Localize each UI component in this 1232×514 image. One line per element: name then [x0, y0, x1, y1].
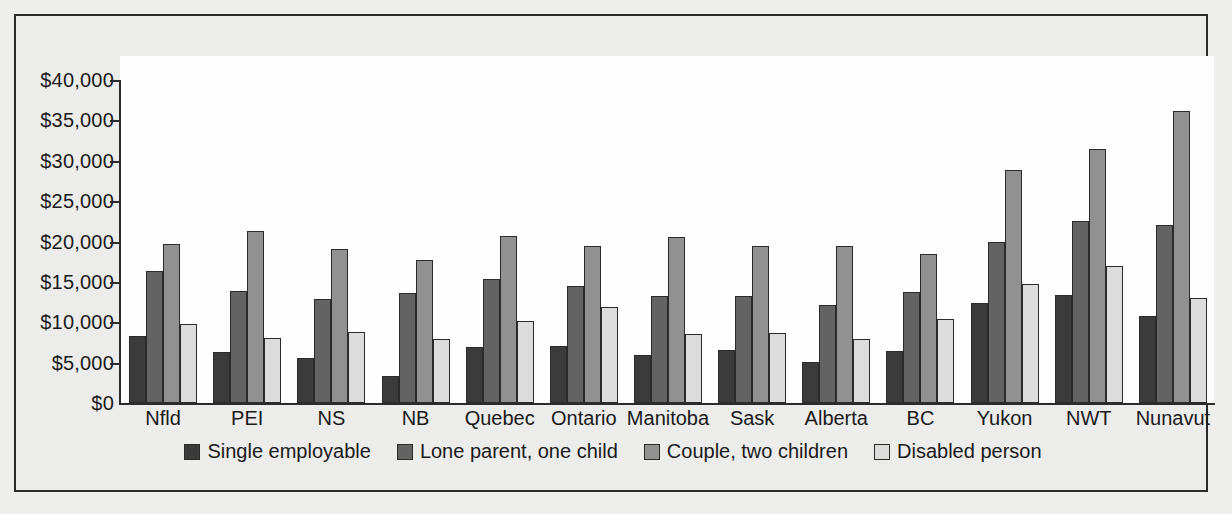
y-axis-tick-label: $25,000 [40, 190, 114, 213]
y-axis-tick [110, 282, 119, 284]
x-axis-tick-label: Nfld [121, 407, 205, 430]
bar [314, 299, 331, 403]
y-axis-tick [110, 201, 119, 203]
bar-group [289, 56, 373, 403]
x-axis-tick-label: Manitoba [626, 407, 710, 430]
bar-group [878, 56, 962, 403]
bar [567, 286, 584, 403]
bar [1156, 225, 1173, 403]
bar [550, 346, 567, 403]
bar-groups [121, 56, 1215, 403]
bar [483, 279, 500, 403]
bar [500, 236, 517, 403]
legend-item: Couple, two children [644, 440, 848, 463]
y-axis-tick-label: $10,000 [40, 311, 114, 334]
x-axis-tick-label: Nunavut [1131, 407, 1215, 430]
bar-group [963, 56, 1047, 403]
bar [769, 333, 786, 403]
legend-swatch-icon [397, 444, 413, 460]
x-axis-tick-label: Yukon [963, 407, 1047, 430]
bar [1089, 149, 1106, 403]
bar [163, 244, 180, 403]
x-axis-tick-label: Sask [710, 407, 794, 430]
bar [685, 334, 702, 403]
bar [230, 291, 247, 403]
bar [668, 237, 685, 403]
bar [802, 362, 819, 403]
bar-group [1047, 56, 1131, 403]
bar [634, 355, 651, 403]
legend-label: Couple, two children [667, 440, 848, 463]
bar [1139, 316, 1156, 403]
bar [1072, 221, 1089, 403]
bar [297, 358, 314, 403]
legend-swatch-icon [874, 444, 890, 460]
y-axis-tick-label: $20,000 [40, 230, 114, 253]
x-axis-tick-label: NB [373, 407, 457, 430]
legend-item: Lone parent, one child [397, 440, 618, 463]
x-axis-tick-label: BC [878, 407, 962, 430]
y-axis-tick-label: $40,000 [40, 69, 114, 92]
bar [1106, 266, 1123, 403]
bar [1190, 298, 1207, 403]
bar [584, 246, 601, 403]
bar [517, 321, 534, 403]
y-axis-tick-label: $0 [91, 392, 114, 415]
bar [433, 339, 450, 403]
bar [1022, 284, 1039, 403]
legend-label: Lone parent, one child [420, 440, 618, 463]
bar [213, 352, 230, 403]
bar [180, 324, 197, 403]
bar [752, 246, 769, 403]
bar-group [373, 56, 457, 403]
y-axis-tick-label: $5,000 [52, 351, 114, 374]
x-axis-tick-label: NS [289, 407, 373, 430]
chart-frame: $0$5,000$10,000$15,000$20,000$25,000$30,… [14, 14, 1208, 492]
y-axis-tick [110, 322, 119, 324]
bar [601, 307, 618, 403]
legend-label: Single employable [207, 440, 370, 463]
bar-group [458, 56, 542, 403]
bar-group [1131, 56, 1215, 403]
x-axis-tick-label: Ontario [542, 407, 626, 430]
bar [264, 338, 281, 403]
bar [853, 339, 870, 403]
bar-group [205, 56, 289, 403]
x-axis-tick-label: PEI [205, 407, 289, 430]
bar [903, 292, 920, 403]
bar [937, 319, 954, 403]
bar-group [542, 56, 626, 403]
y-axis-tick-label: $15,000 [40, 270, 114, 293]
y-axis-tick-label: $30,000 [40, 149, 114, 172]
bar [1005, 170, 1022, 403]
bar-group [710, 56, 794, 403]
bar [348, 332, 365, 403]
y-axis-tick [110, 80, 119, 82]
bar [129, 336, 146, 403]
bar [718, 350, 735, 403]
bar [735, 296, 752, 403]
bar [886, 351, 903, 403]
bar [1173, 111, 1190, 403]
bar-group [121, 56, 205, 403]
bar [247, 231, 264, 403]
bar-group [626, 56, 710, 403]
bar-group [794, 56, 878, 403]
bar [836, 246, 853, 403]
y-axis-tick-label: $35,000 [40, 109, 114, 132]
bar [819, 305, 836, 404]
legend-swatch-icon [644, 444, 660, 460]
bar [971, 303, 988, 403]
bar [399, 293, 416, 403]
legend-swatch-icon [184, 444, 200, 460]
bar [331, 249, 348, 403]
chart-screenshot: $0$5,000$10,000$15,000$20,000$25,000$30,… [0, 0, 1232, 514]
x-axis-tick-label: Quebec [458, 407, 542, 430]
bar [416, 260, 433, 403]
bar [466, 347, 483, 403]
y-axis-tick [110, 120, 119, 122]
bar [146, 271, 163, 403]
bar [382, 376, 399, 403]
y-axis-tick [110, 363, 119, 365]
x-axis-line [119, 403, 1215, 405]
